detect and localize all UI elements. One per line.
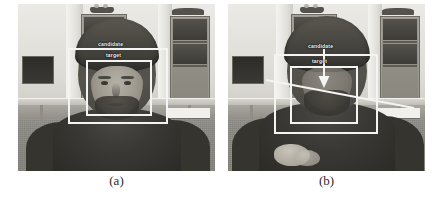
panel-b-image: candidate target <box>228 4 425 171</box>
candidate-label-b: candidate <box>308 44 333 49</box>
caption-b: (b) <box>228 173 425 189</box>
annotation-arrow-group-b <box>228 4 425 171</box>
figure-container: candidate target <box>0 0 445 199</box>
target-bounding-box-a <box>86 60 152 116</box>
arrow-head-b <box>319 76 330 88</box>
motion-connector-line-b <box>266 80 414 108</box>
caption-a: (a) <box>18 173 215 189</box>
candidate-label-a: candidate <box>98 42 123 47</box>
panel-a-image: candidate target <box>18 4 215 171</box>
target-label-b: target <box>312 59 327 64</box>
target-label-a: target <box>106 53 121 58</box>
